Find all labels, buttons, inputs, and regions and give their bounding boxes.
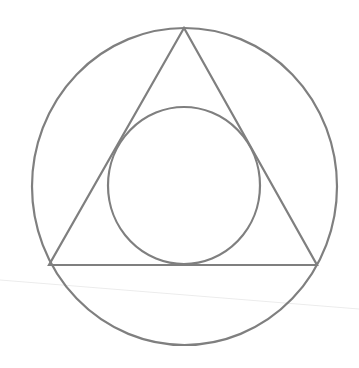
outer-circumscribed-circle: [32, 28, 337, 345]
diagram-canvas: [0, 0, 359, 368]
inner-inscribed-circle: [108, 107, 260, 264]
